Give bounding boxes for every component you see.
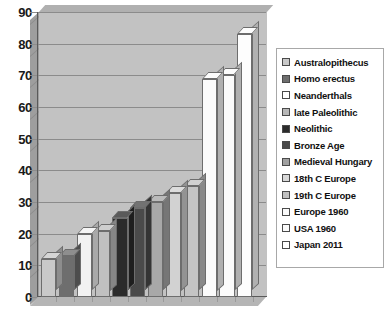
y-axis-tick-mark xyxy=(30,265,37,266)
y-axis-tick-mark xyxy=(30,170,37,171)
legend-swatch-icon xyxy=(282,174,290,182)
legend-item[interactable]: 19th C Europe xyxy=(282,187,379,204)
y-axis-tick-mark xyxy=(30,139,37,140)
bar-side-face xyxy=(252,21,259,290)
bar-side-face xyxy=(181,179,188,290)
legend-swatch-icon xyxy=(282,191,290,199)
bar-side-face xyxy=(128,205,135,290)
x-axis-tick xyxy=(128,297,129,302)
legend-swatch-icon xyxy=(282,108,290,116)
legend-swatch-icon xyxy=(282,158,290,166)
bar-side-face xyxy=(199,173,206,290)
legend-item[interactable]: Neanderthals xyxy=(282,87,379,104)
legend-item-label: Europe 1960 xyxy=(294,206,348,217)
legend-swatch-icon xyxy=(282,58,290,66)
legend-item[interactable]: late Paleolithic xyxy=(282,104,379,121)
legend-item-label: Japan 2011 xyxy=(294,239,343,250)
y-axis: 0102030405060708090 xyxy=(0,0,34,316)
y-axis-tick-mark xyxy=(30,12,37,13)
y-axis-tick-mark xyxy=(30,297,37,298)
y-axis-tick-mark xyxy=(30,75,37,76)
legend-swatch-icon xyxy=(282,224,290,232)
legend-item-label: Homo erectus xyxy=(294,73,355,84)
legend-item[interactable]: Japan 2011 xyxy=(282,237,379,254)
bar-chart-figure: 0102030405060708090 AustralopithecusHomo… xyxy=(0,0,388,316)
legend-swatch-icon xyxy=(282,91,290,99)
legend-item[interactable]: Neolithic xyxy=(282,120,379,137)
gridline xyxy=(38,12,266,13)
legend-swatch-icon xyxy=(282,75,290,83)
legend-swatch-icon xyxy=(282,141,290,149)
x-axis-tick xyxy=(110,297,111,302)
legend-item[interactable]: 18th C Europe xyxy=(282,170,379,187)
x-axis-tick xyxy=(253,297,254,302)
bar xyxy=(41,259,56,297)
x-axis-tick xyxy=(235,297,236,302)
legend-item-label: late Paleolithic xyxy=(294,107,357,118)
legend-item[interactable]: Australopithecus xyxy=(282,54,379,71)
legend-item-label: USA 1960 xyxy=(294,223,336,234)
plot-area: 0102030405060708090 xyxy=(0,0,272,316)
legend-item[interactable]: Medieval Hungary xyxy=(282,154,379,171)
y-axis-tick-mark xyxy=(30,107,37,108)
gridline xyxy=(38,44,266,45)
legend-item-label: Medieval Hungary xyxy=(294,156,372,167)
legend-item-label: Australopithecus xyxy=(294,57,368,68)
chart-legend: AustralopithecusHomo erectusNeanderthals… xyxy=(276,48,384,268)
y-axis-tick-mark xyxy=(30,234,37,235)
legend-item[interactable]: Bronze Age xyxy=(282,137,379,154)
bar-side-face xyxy=(217,65,224,290)
x-axis-tick xyxy=(217,297,218,302)
x-axis-tick xyxy=(56,297,57,302)
legend-item-label: Neolithic xyxy=(294,123,332,134)
y-axis-line xyxy=(37,12,38,297)
plot-floor xyxy=(30,297,266,306)
legend-item-label: Neanderthals xyxy=(294,90,352,101)
bar-side-face xyxy=(145,195,152,290)
x-axis-tick xyxy=(146,297,147,302)
legend-item[interactable]: USA 1960 xyxy=(282,220,379,237)
legend-item[interactable]: Europe 1960 xyxy=(282,203,379,220)
legend-swatch-icon xyxy=(282,208,290,216)
legend-item-label: 19th C Europe xyxy=(294,190,356,201)
bar-side-face xyxy=(235,62,242,290)
legend-item[interactable]: Homo erectus xyxy=(282,71,379,88)
x-axis-tick xyxy=(163,297,164,302)
x-axis-tick xyxy=(74,297,75,302)
y-axis-tick-mark xyxy=(30,44,37,45)
legend-item-label: Bronze Age xyxy=(294,140,344,151)
bar-side-face xyxy=(163,189,170,290)
legend-swatch-icon xyxy=(282,125,290,133)
legend-swatch-icon xyxy=(282,241,290,249)
bar-front-face xyxy=(41,259,56,297)
y-axis-tick-mark xyxy=(30,202,37,203)
x-axis-tick xyxy=(181,297,182,302)
x-axis-tick xyxy=(199,297,200,302)
x-axis-tick xyxy=(92,297,93,302)
legend-item-label: 18th C Europe xyxy=(294,173,356,184)
